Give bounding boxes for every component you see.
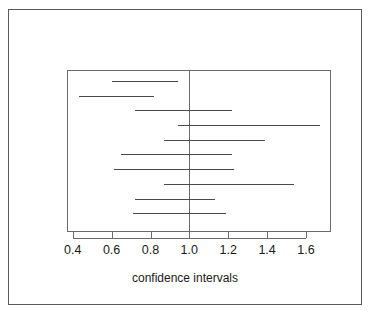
x-axis-tick-label: 1.6 bbox=[286, 243, 326, 257]
confidence-interval-line bbox=[164, 140, 265, 141]
figure-root: 0.40.60.81.01.21.41.6 confidence interva… bbox=[0, 0, 370, 314]
confidence-interval-line bbox=[178, 125, 320, 126]
x-axis-tick bbox=[151, 232, 152, 238]
confidence-interval-line bbox=[112, 81, 178, 82]
x-axis-tick bbox=[112, 232, 113, 238]
confidence-interval-line bbox=[121, 154, 232, 155]
x-axis-tick-label: 0.4 bbox=[53, 243, 93, 257]
confidence-interval-line bbox=[164, 184, 294, 185]
x-axis-tick-label: 0.6 bbox=[92, 243, 132, 257]
x-axis-line bbox=[73, 238, 306, 239]
reference-line-at-one bbox=[189, 70, 190, 232]
x-axis-tick bbox=[189, 232, 190, 238]
x-axis-tick bbox=[73, 232, 74, 238]
x-axis-tick-label: 1.2 bbox=[208, 243, 248, 257]
confidence-interval-line bbox=[79, 96, 155, 97]
plot-area: 0.40.60.81.01.21.41.6 confidence interva… bbox=[0, 0, 370, 314]
x-axis-tick bbox=[228, 232, 229, 238]
x-axis-tick-label: 0.8 bbox=[131, 243, 171, 257]
x-axis-tick-label: 1.0 bbox=[169, 243, 209, 257]
plot-box-border bbox=[67, 70, 331, 232]
x-axis-tick bbox=[306, 232, 307, 238]
x-axis-tick-label: 1.4 bbox=[247, 243, 287, 257]
confidence-interval-line bbox=[135, 199, 215, 200]
x-axis-tick bbox=[267, 232, 268, 238]
x-axis-title: confidence intervals bbox=[0, 271, 370, 285]
confidence-interval-line bbox=[133, 213, 226, 214]
confidence-interval-line bbox=[114, 169, 235, 170]
confidence-interval-line bbox=[135, 110, 232, 111]
